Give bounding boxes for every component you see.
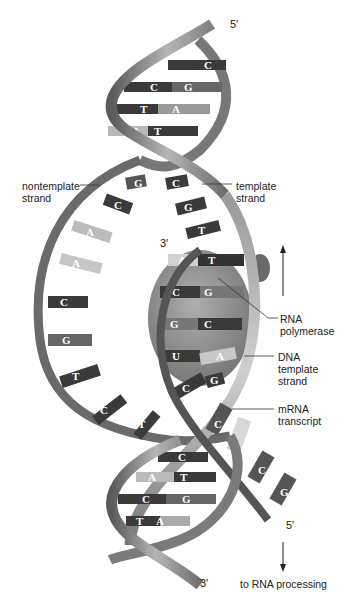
- bottom-3prime-label: 3′: [200, 577, 208, 589]
- top-base-1-left: C: [150, 81, 158, 93]
- bottom-base-2-left: C: [142, 493, 150, 505]
- mrna-transcript-label: mRNA transcript: [278, 403, 321, 427]
- top-base-0-right: C: [204, 59, 212, 71]
- transcription-direction-arrow: [280, 245, 286, 296]
- hybrid-3-dna: A: [216, 350, 224, 362]
- top-base-2-left: T: [140, 103, 148, 115]
- rna-3prime-label: 3′: [160, 237, 168, 249]
- to-rna-processing-label: to RNA processing: [240, 578, 327, 590]
- hybrid-4-dna: G: [210, 374, 219, 386]
- nontemplate-strand-label: nontemplate strand: [22, 180, 80, 204]
- template-strand-label: template strand: [236, 180, 276, 204]
- mrna-base-0: C: [214, 418, 222, 430]
- template-base-0: C: [172, 177, 180, 189]
- nontemplate-base-2: A: [86, 226, 94, 238]
- hybrid-1-dna: G: [204, 286, 213, 298]
- rna-polymerase-label: RNA polymerase: [280, 313, 334, 337]
- transcription-diagram: C C G T A A T G C A A C G: [0, 0, 353, 601]
- top-base-1-right: G: [184, 81, 193, 93]
- to-rna-processing-arrow: [280, 542, 286, 572]
- bottom-base-2-right: G: [182, 493, 191, 505]
- hybrid-2-dna: C: [204, 318, 212, 330]
- bottom-base-0-right: C: [178, 451, 186, 463]
- bottom-base-1-right: T: [180, 471, 188, 483]
- nontemplate-base-4: C: [60, 296, 68, 308]
- bottom-base-1-left: A: [148, 471, 156, 483]
- hybrid-4-rna: C: [182, 382, 190, 394]
- top-base-2-right: A: [172, 103, 180, 115]
- nontemplate-base-7: C: [100, 404, 108, 416]
- nontemplate-base-6: T: [72, 370, 80, 382]
- nontemplate-base-8: T: [138, 418, 146, 430]
- nontemplate-base-1: C: [114, 199, 122, 211]
- nontemplate-base-3: A: [72, 257, 80, 269]
- top-5prime-label: 5′: [230, 18, 238, 30]
- mrna-base-3: G: [280, 486, 289, 498]
- hybrid-2-rna: G: [170, 318, 179, 330]
- bottom-base-3-left: T: [136, 515, 144, 527]
- template-base-2: T: [198, 224, 206, 236]
- hybrid-0-dna: T: [208, 254, 216, 266]
- template-base-1: G: [184, 201, 193, 213]
- nontemplate-base-0: G: [134, 177, 143, 189]
- mrna-base-2: C: [258, 464, 266, 476]
- dna-template-strand-label: DNA template strand: [278, 351, 318, 387]
- bottom-base-3-right: A: [156, 515, 164, 527]
- top-base-3-right: T: [154, 125, 162, 137]
- nontemplate-base-5: G: [62, 334, 71, 346]
- hybrid-3-rna: U: [172, 350, 180, 362]
- mrna-5prime-label: 5′: [286, 519, 294, 531]
